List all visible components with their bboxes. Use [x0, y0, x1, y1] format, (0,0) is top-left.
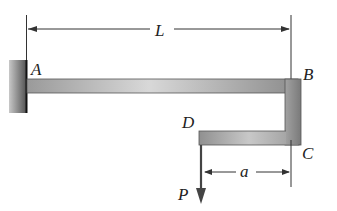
label-load-P: P — [177, 185, 188, 204]
label-point-A: A — [30, 60, 42, 79]
fixed-wall-support — [9, 60, 27, 113]
frame-diagram: L A B C D P a — [0, 0, 337, 211]
label-point-D: D — [181, 113, 195, 132]
label-point-C: C — [302, 144, 314, 163]
load-arrow-P — [196, 145, 206, 204]
label-a: a — [240, 162, 249, 181]
frame-member — [27, 79, 301, 145]
label-L: L — [154, 21, 164, 40]
label-point-B: B — [303, 65, 314, 84]
